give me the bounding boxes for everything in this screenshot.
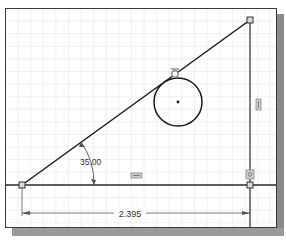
circle-center-point[interactable]	[177, 101, 180, 104]
endpoint-top-right[interactable]	[247, 17, 253, 23]
angle-dimension-label[interactable]: 35.00	[80, 157, 102, 167]
horizontal-constraint-icon[interactable]	[131, 173, 142, 178]
vertical-constraint-icon[interactable]	[256, 99, 261, 110]
linear-dimension-label[interactable]: 2.395	[119, 209, 142, 219]
grid	[6, 9, 276, 227]
endpoint-bottom-left[interactable]	[19, 182, 25, 188]
sketch-drawing[interactable]: 35.00 2.395	[0, 0, 286, 243]
endpoint-bottom-right[interactable]	[247, 182, 253, 188]
coincident-constraint-icon[interactable]	[246, 170, 254, 179]
